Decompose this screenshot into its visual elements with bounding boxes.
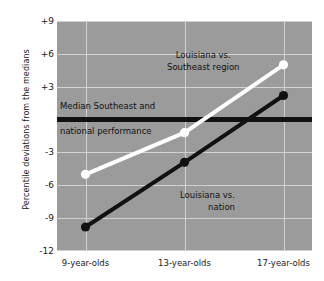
louisiana-vs-nation-label-line1: Louisiana vs.	[143, 189, 235, 201]
louisiana-vs-southeast-label-line2: Southeast region	[167, 61, 240, 73]
louisiana-vs-nation-label-line2: nation	[143, 201, 235, 213]
y-axis-tick-labels: +9 +6 +3 -3 -6 -9 -12	[26, 0, 54, 281]
data-point-nation-17-year-olds	[279, 91, 288, 100]
y-tick-label-neg12: -12	[28, 246, 54, 256]
x-tick-label-9-year-olds: 9-year-olds	[62, 258, 109, 268]
y-tick-label-neg9: -9	[28, 213, 54, 223]
louisiana-vs-southeast-label-line1: Louisiana vs.	[167, 49, 240, 61]
y-tick-label-6: +6	[28, 49, 54, 59]
data-point-nation-13-year-olds	[180, 158, 189, 167]
x-tick-label-13-year-olds: 13-year-olds	[158, 258, 211, 268]
median-reference-label-line2: national performance	[60, 125, 152, 137]
median-reference-label-line1: Median Southeast and	[60, 100, 155, 112]
y-tick-label-3: +3	[28, 82, 54, 92]
louisiana-vs-nation-label: Louisiana vs. nation	[143, 189, 235, 213]
plot-area: Median Southeast and national performanc…	[57, 21, 312, 251]
y-tick-label-neg6: -6	[28, 180, 54, 190]
data-point-nation-9-year-olds	[81, 222, 90, 231]
data-point-southeast-17-year-olds	[279, 60, 288, 69]
chart-figure: Percentile deviations from the medians +…	[0, 0, 324, 281]
x-tick-label-17-year-olds: 17-year-olds	[257, 258, 310, 268]
louisiana-vs-southeast-label: Louisiana vs. Southeast region	[167, 49, 240, 73]
y-tick-label-neg3: -3	[28, 147, 54, 157]
data-point-southeast-9-year-olds	[81, 170, 90, 179]
y-tick-label-9: +9	[28, 16, 54, 26]
data-point-southeast-13-year-olds	[180, 128, 189, 137]
